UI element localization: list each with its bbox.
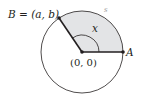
angle-label: x xyxy=(92,22,98,34)
origin-label: (0, 0) xyxy=(70,57,97,68)
point-b-label: B = (a, b) xyxy=(7,8,59,20)
point-a xyxy=(121,50,125,54)
unit-circle-diagram: B = (a, b) A (0, 0) x s xyxy=(0,0,141,99)
origin-point xyxy=(80,50,84,54)
point-a-label: A xyxy=(125,46,134,58)
arc-label: s xyxy=(104,6,108,14)
